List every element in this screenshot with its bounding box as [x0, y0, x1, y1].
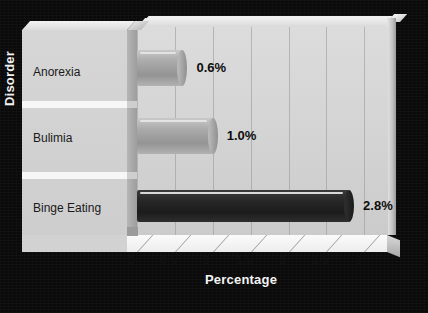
x-axis-tick-label: 0: [116, 253, 146, 267]
category-label-anorexia: Anorexia: [33, 65, 80, 79]
bar-end-cap: [208, 118, 218, 154]
chart-3d-scene: Anorexia Bulimia Binge Eating 00.511.522…: [0, 0, 428, 313]
plot-floor-front: [22, 235, 127, 252]
bar-bulimia: [137, 118, 213, 154]
chart-figure: Anorexia Bulimia Binge Eating 00.511.522…: [0, 0, 428, 313]
category-panel-side: [127, 30, 137, 235]
x-axis-tick-label: 2: [268, 253, 298, 267]
bar-body: [137, 50, 182, 86]
x-axis-tick-label: 1: [192, 253, 222, 267]
category-label-binge-eating: Binge Eating: [33, 201, 101, 215]
x-axis-tick-label: 0.5: [154, 253, 184, 267]
category-panel-top: [22, 21, 135, 30]
category-label-bulimia: Bulimia: [33, 131, 72, 145]
bar-highlight: [140, 52, 176, 54]
bar-highlight: [140, 192, 343, 194]
plot-floor-corner: [127, 227, 138, 236]
bar-anorexia: [137, 50, 182, 86]
bar-value-label: 2.8%: [363, 198, 393, 213]
category-separator: [22, 172, 127, 179]
x-axis-tick-label: 2.5: [305, 253, 335, 267]
x-axis-tick-label: 3: [343, 253, 373, 267]
bar-binge-eating: [137, 190, 349, 222]
bar-body: [137, 118, 213, 154]
bar-value-label: 1.0%: [227, 128, 257, 143]
category-separator-side: [127, 172, 137, 179]
bar-highlight: [140, 120, 207, 122]
category-separator: [22, 101, 127, 108]
x-axis-title: Percentage: [205, 272, 277, 287]
plot-back-wall-top: [137, 18, 395, 27]
bar-value-label: 0.6%: [196, 60, 226, 75]
x-axis-tick-label: 1.5: [230, 253, 260, 267]
category-separator-side: [127, 101, 137, 108]
bar-body: [137, 190, 349, 222]
y-axis-title: Disorder: [2, 0, 20, 106]
plot-floor-right: [387, 235, 400, 257]
